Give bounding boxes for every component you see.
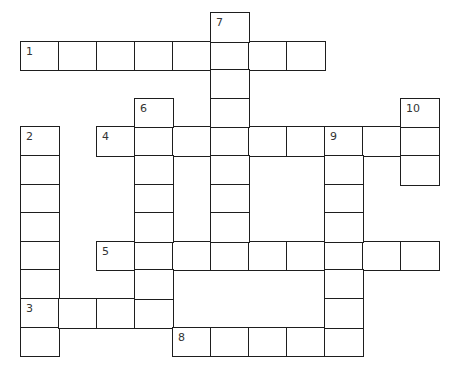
crossword-cell[interactable] xyxy=(286,41,326,71)
crossword-cell[interactable] xyxy=(96,298,136,329)
clue-number: 6 xyxy=(140,103,147,115)
clue-number: 2 xyxy=(26,131,33,143)
crossword-cell[interactable] xyxy=(58,298,98,329)
crossword-cell[interactable] xyxy=(134,298,174,329)
crossword-cell[interactable] xyxy=(210,155,250,186)
crossword-cell[interactable]: 2 xyxy=(20,126,60,157)
crossword-cell[interactable]: 5 xyxy=(96,241,136,271)
crossword-cell[interactable] xyxy=(248,241,288,271)
crossword-cell[interactable] xyxy=(362,241,402,271)
crossword-cell[interactable] xyxy=(134,241,174,271)
crossword-cell[interactable] xyxy=(210,69,250,100)
crossword-cell[interactable] xyxy=(286,126,326,157)
crossword-cell[interactable] xyxy=(248,126,288,157)
crossword-cell[interactable] xyxy=(286,327,326,357)
crossword-cell[interactable] xyxy=(210,41,250,71)
crossword-cell[interactable] xyxy=(324,241,364,271)
crossword-cell[interactable]: 4 xyxy=(96,126,136,157)
crossword-cell[interactable] xyxy=(20,269,60,300)
crossword-cell[interactable] xyxy=(324,327,364,357)
crossword-cell[interactable] xyxy=(20,155,60,186)
crossword-cell[interactable]: 7 xyxy=(210,12,250,43)
crossword-cell[interactable] xyxy=(210,241,250,271)
clue-number: 10 xyxy=(406,103,420,115)
crossword-cell[interactable] xyxy=(210,184,250,214)
crossword-cell[interactable] xyxy=(172,41,212,71)
crossword-cell[interactable] xyxy=(20,241,60,271)
crossword-cell[interactable] xyxy=(248,327,288,357)
clue-number: 7 xyxy=(216,17,223,29)
crossword-cell[interactable] xyxy=(58,41,98,71)
crossword-cell[interactable] xyxy=(20,327,60,357)
crossword-cell[interactable] xyxy=(324,212,364,243)
crossword-cell[interactable] xyxy=(20,212,60,243)
crossword-cell[interactable] xyxy=(362,126,402,157)
crossword-cell[interactable] xyxy=(210,98,250,128)
crossword-cell[interactable] xyxy=(286,241,326,271)
crossword-cell[interactable] xyxy=(172,126,212,157)
crossword-cell[interactable] xyxy=(400,155,440,186)
crossword-cell[interactable] xyxy=(134,212,174,243)
clue-number: 1 xyxy=(26,46,33,58)
crossword-cell[interactable] xyxy=(210,126,250,157)
crossword-cell[interactable]: 8 xyxy=(172,327,212,357)
crossword-cell[interactable] xyxy=(172,241,212,271)
crossword-cell[interactable] xyxy=(134,41,174,71)
crossword-cell[interactable] xyxy=(210,327,250,357)
crossword-cell[interactable]: 1 xyxy=(20,41,60,71)
crossword-cell[interactable]: 10 xyxy=(400,98,440,128)
crossword-cell[interactable]: 6 xyxy=(134,98,174,128)
crossword-cell[interactable] xyxy=(324,184,364,214)
clue-number: 5 xyxy=(102,246,109,258)
crossword-cell[interactable]: 9 xyxy=(324,126,364,157)
clue-number: 9 xyxy=(330,131,337,143)
crossword-cell[interactable] xyxy=(248,41,288,71)
crossword-cell[interactable] xyxy=(134,269,174,300)
clue-number: 4 xyxy=(102,131,109,143)
clue-number: 8 xyxy=(178,332,185,344)
crossword-cell[interactable] xyxy=(210,212,250,243)
crossword-cell[interactable] xyxy=(400,241,440,271)
crossword-grid: 12349567810 xyxy=(0,0,456,376)
clue-number: 3 xyxy=(26,303,33,315)
crossword-cell[interactable] xyxy=(324,298,364,329)
crossword-cell[interactable] xyxy=(134,155,174,186)
crossword-cell[interactable] xyxy=(20,184,60,214)
crossword-cell[interactable] xyxy=(400,126,440,157)
crossword-cell[interactable] xyxy=(134,184,174,214)
crossword-cell[interactable] xyxy=(324,269,364,300)
crossword-cell[interactable]: 3 xyxy=(20,298,60,329)
crossword-cell[interactable] xyxy=(96,41,136,71)
crossword-cell[interactable] xyxy=(134,126,174,157)
crossword-cell[interactable] xyxy=(324,155,364,186)
